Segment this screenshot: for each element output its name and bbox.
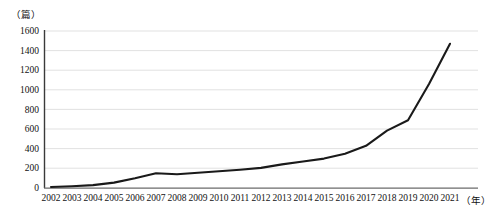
gridlines	[44, 31, 478, 168]
line-chart: （篇） 1600 1400 1200 1000 800 600 400 200 …	[0, 0, 498, 218]
plot-area	[0, 0, 498, 218]
data-series-line	[51, 44, 450, 187]
x-axis-unit-label: （年）	[461, 193, 491, 207]
